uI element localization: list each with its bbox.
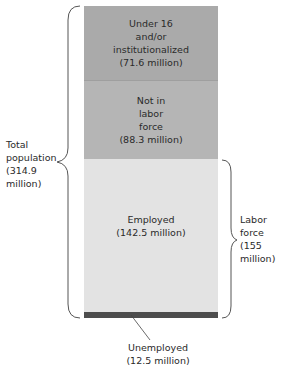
- total-population-brace-icon: [57, 6, 80, 318]
- unemployed-label: Unemployed (12.5 million): [108, 341, 208, 367]
- labor-force-brace-icon: [222, 160, 237, 318]
- unemployed-leader-line: [131, 315, 150, 340]
- total-population-label: Total population (314.9 million): [6, 138, 57, 190]
- labor-force-label: Labor force (155 million): [240, 213, 275, 265]
